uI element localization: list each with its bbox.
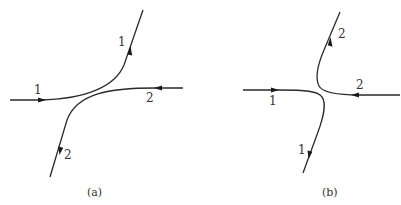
panel-a-curve-1 — [10, 10, 143, 100]
panel-b-label-2-in: 2 — [356, 78, 364, 92]
panel-b-curve-1 — [243, 90, 324, 173]
panel-b-label-2-out: 2 — [338, 27, 346, 41]
panel-a-curve-1-arrow-in-icon — [38, 98, 46, 103]
panel-a-label-2-in: 2 — [146, 91, 154, 105]
panel-a: 1 1 2 2 (a) — [10, 10, 183, 199]
panel-b-label-1-out: 1 — [298, 143, 306, 157]
panel-b-caption: (b) — [322, 186, 338, 199]
panel-a-caption: (a) — [87, 186, 102, 199]
panel-b-curve-2-arrow-in-icon — [351, 93, 359, 98]
panel-b-curve-1-arrow-in-icon — [271, 88, 279, 93]
panel-a-curve-2 — [50, 88, 183, 177]
panel-a-label-1-out: 1 — [118, 35, 126, 49]
panel-a-curve-2-arrow-out-icon — [58, 147, 63, 156]
panel-a-label-2-out: 2 — [64, 148, 72, 162]
panel-a-label-1-in: 1 — [34, 83, 42, 97]
panel-b-label-1-in: 1 — [269, 94, 277, 108]
scattering-diagram: 1 1 2 2 (a) 1 1 2 2 (b) — [0, 0, 401, 205]
panel-a-curve-2-arrow-in-icon — [154, 86, 162, 91]
panel-b: 1 1 2 2 (b) — [243, 12, 400, 199]
